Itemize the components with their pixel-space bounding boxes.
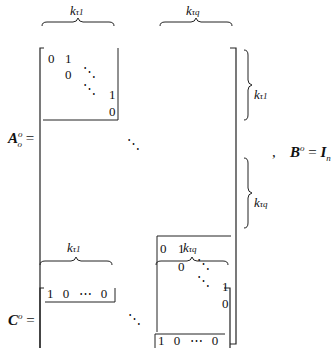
- ddots: ⋱: [197, 274, 210, 287]
- entry: 0: [178, 260, 185, 273]
- ddots: ⋱: [128, 312, 141, 325]
- ddots: ⋱: [83, 65, 96, 78]
- separator: ,: [272, 145, 276, 160]
- brace-label-k-tauq: kτq: [183, 241, 197, 254]
- entry: 0: [222, 297, 229, 310]
- matrix-label-C: Co =: [8, 312, 35, 328]
- brace-label-k-tau1: kτ1: [67, 241, 81, 254]
- matrix-label-A: Aoo =: [8, 130, 34, 149]
- brace-label-k-tauq: kτq: [186, 4, 200, 17]
- entry: 0: [65, 68, 72, 81]
- entry: 0: [109, 105, 116, 118]
- row: 1 0 ⋯ 0: [158, 334, 218, 347]
- entry: 1: [109, 88, 116, 101]
- ddots: ⋱: [83, 82, 96, 95]
- row: 1 0 ⋯ 0: [47, 287, 107, 300]
- B-equals-I: Bo = In: [290, 144, 331, 163]
- entry: 1: [65, 52, 72, 65]
- ddots: ⋱: [197, 257, 210, 270]
- entry: 1: [222, 280, 229, 293]
- brace-label-k-tauq: kτq: [254, 196, 268, 209]
- entry: 0: [160, 242, 167, 255]
- entry: 0: [48, 52, 55, 65]
- ddots: ⋱: [127, 137, 140, 150]
- brace-label-k-tau1: kτ1: [70, 4, 84, 17]
- brace-label-k-tau1: kτ1: [254, 88, 268, 101]
